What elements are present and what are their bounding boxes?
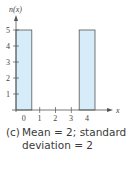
histogram-chart: 12345 01234 n(x) x — [0, 0, 129, 125]
caption-line-2: deviation = 2 — [6, 139, 128, 152]
x-tick-label: 2 — [53, 114, 57, 123]
x-axis-label: x — [115, 106, 120, 115]
y-tick-label: 2 — [6, 74, 10, 83]
bars — [16, 30, 95, 110]
x-tick-label: 4 — [85, 114, 89, 123]
x-tick-label: 1 — [38, 114, 42, 123]
figure-caption: (c)Mean = 2; standard deviation = 2 — [6, 126, 128, 152]
caption-label: (c) — [6, 126, 22, 139]
bar-4 — [79, 30, 95, 110]
y-tick-label: 4 — [6, 42, 10, 51]
x-tick-label: 3 — [69, 114, 73, 123]
caption-line-1: Mean = 2; standard — [22, 126, 126, 138]
x-tick-label: 0 — [22, 114, 26, 123]
y-axis-label: n(x) — [9, 5, 22, 14]
x-axis-arrow-icon — [107, 108, 113, 112]
y-axis-arrow-icon — [14, 15, 18, 21]
bar-0 — [16, 30, 32, 110]
y-tick-label: 5 — [6, 26, 10, 35]
y-tick-label: 1 — [6, 90, 10, 99]
y-tick-label: 3 — [6, 58, 10, 67]
